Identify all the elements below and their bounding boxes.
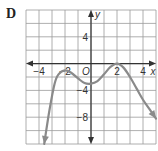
x-tick-label: 2	[114, 66, 120, 77]
origin-label: O	[82, 66, 90, 77]
y-axis-arrow-up-icon	[88, 10, 94, 17]
y-axis-arrow-down-icon	[88, 137, 94, 144]
function-graph: −4−2244−4−8Oxy	[0, 0, 158, 151]
x-tick-label: −4	[33, 66, 45, 77]
y-axis-label: y	[94, 9, 101, 20]
x-axis-arrow-left-icon	[26, 61, 33, 67]
y-tick-label: −4	[77, 85, 89, 96]
y-tick-label: 4	[82, 32, 88, 43]
y-tick-label: −8	[77, 112, 89, 123]
x-axis-label: x	[150, 66, 157, 77]
x-tick-label: 4	[140, 66, 146, 77]
